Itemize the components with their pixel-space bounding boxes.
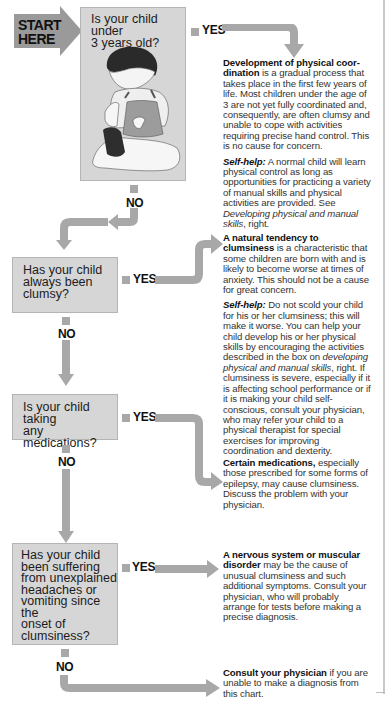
answer-physical-coordination: Development of physical coor-dination is…: [223, 58, 371, 235]
no-marker: [62, 317, 70, 325]
yes-arrow-to-answer-2-icon: [155, 230, 225, 290]
no-label: NO: [58, 455, 75, 469]
yes-marker: [122, 414, 130, 422]
start-here-arrow: START HERE: [12, 6, 82, 56]
answer-nervous-system: A nervous system or muscular disorder ma…: [223, 550, 371, 628]
question-box-headaches: Has your child been suffering from unexp…: [12, 543, 118, 645]
yes-label: YES: [132, 560, 155, 574]
answer-heading: Consult your physician: [223, 667, 327, 678]
no-arrow-to-answer-5-icon: [58, 675, 222, 699]
start-label: START: [18, 18, 61, 32]
yes-marker: [122, 276, 130, 284]
here-label: HERE: [18, 32, 61, 46]
answer-consult-physician: Consult your physician if you are unable…: [223, 668, 371, 704]
yes-label: YES: [133, 410, 156, 424]
no-label: NO: [56, 660, 73, 674]
question-text: Has your child been suffering from unexp…: [21, 550, 117, 642]
yes-label: YES: [133, 272, 156, 286]
answer-heading: Certain medications,: [223, 457, 315, 468]
self-help-label: Self-help:: [223, 299, 266, 310]
no-marker: [130, 185, 138, 193]
no-marker: [61, 649, 69, 657]
page-corner-divider: [376, 692, 385, 693]
yes-arrow-to-answer-4-icon: [155, 560, 221, 578]
yes-marker: [122, 564, 130, 572]
question-box-always-clumsy: Has your child always been clumsy?: [12, 257, 118, 313]
question-text: Is your child taking any medications?: [23, 401, 117, 449]
yes-arrow-to-answer-3-icon: [155, 410, 225, 490]
answer-medications: Certain medications, especially those pr…: [223, 458, 371, 515]
no-arrow-to-q3-icon: [58, 340, 74, 386]
question-box-under-3: Is your child under 3 years old?: [80, 7, 186, 181]
question-text: Has your child always been clumsy?: [23, 264, 102, 300]
no-arrow-to-q4-icon: [58, 469, 74, 543]
no-arrow-to-q2-icon: [56, 208, 140, 258]
self-help-label: Self-help:: [223, 156, 266, 167]
page-edge-divider: [383, 0, 385, 694]
yes-arrow-to-answer-1-icon: [222, 24, 306, 60]
answer-natural-tendency: A natural tendency to clumsiness is a ch…: [223, 233, 371, 462]
yes-marker: [191, 28, 199, 36]
no-label: NO: [58, 327, 75, 341]
question-box-medications: Is your child taking any medications?: [12, 394, 118, 440]
no-marker: [62, 445, 70, 453]
toddler-illustration-icon: [85, 42, 183, 178]
